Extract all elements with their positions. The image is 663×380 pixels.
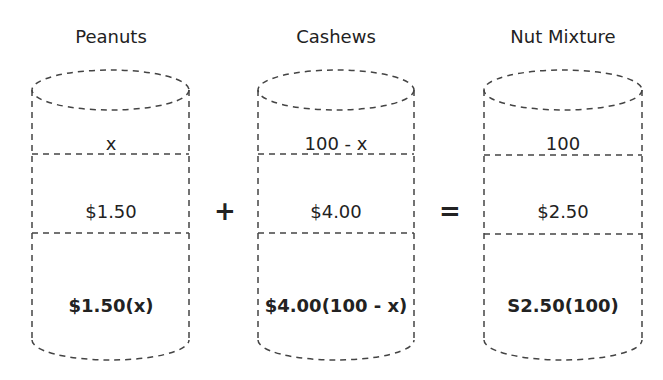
- price-cashews: $4.00: [256, 201, 416, 222]
- amount-peanuts: x: [31, 133, 191, 154]
- value-peanuts: $1.50(x): [31, 295, 191, 316]
- price-nut-mixture: $2.50: [483, 201, 643, 222]
- equals-operator: =: [435, 196, 465, 226]
- title-peanuts: Peanuts: [21, 26, 201, 47]
- value-nut-mixture: S2.50(100): [483, 295, 643, 316]
- value-cashews: $4.00(100 - x): [256, 295, 416, 316]
- amount-cashews: 100 - x: [256, 133, 416, 154]
- amount-nut-mixture: 100: [483, 133, 643, 154]
- title-cashews: Cashews: [246, 26, 426, 47]
- cylinders-diagram: [0, 0, 663, 380]
- title-nut-mixture: Nut Mixture: [473, 26, 653, 47]
- price-peanuts: $1.50: [31, 201, 191, 222]
- plus-operator: +: [210, 196, 240, 226]
